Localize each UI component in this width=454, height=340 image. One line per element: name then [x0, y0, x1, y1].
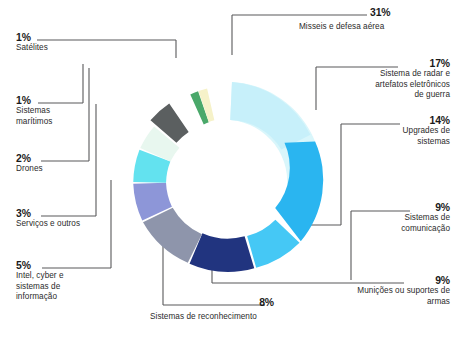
callout-municoes-suportes-armas: 9% Munições ou suportes de armas	[296, 276, 450, 307]
donut-chart-figure: 31% Misseis e defesa aérea 17% Sistema d…	[0, 0, 454, 340]
callout-name-sistemas-maritimos: Sistemas marítimos	[16, 106, 110, 127]
callout-pct-drones: 2%	[16, 154, 110, 164]
callout-sistemas-de-reconhecimento-name: Sistemas de reconhecimento	[150, 312, 340, 322]
callout-name-satelites: Satélites	[16, 43, 110, 53]
callout-pct-upgrades-de-sistemas: 14%	[364, 116, 450, 126]
callout-pct-servicos-e-outros: 3%	[16, 209, 124, 219]
callout-name-municoes-suportes-armas: Munições ou suportes de armas	[296, 286, 450, 307]
callout-pct-satelites: 1%	[16, 33, 110, 43]
callout-satelites: 1% Satélites	[16, 33, 110, 54]
callout-name-intel-cyber-informacao: Intel, cyber e sistemas de informação	[16, 271, 112, 302]
callout-radar-guerra-eletronica: 17% Sistema de radar e artefatos eletrôn…	[354, 59, 450, 101]
callout-pct-intel-cyber-informacao: 5%	[16, 261, 112, 271]
callout-name-radar-guerra-eletronica: Sistema de radar e artefatos eletrônicos…	[354, 69, 450, 100]
callout-name-misseis-defesa-aerea: Misseis e defesa aérea	[299, 22, 454, 32]
callout-misseis-defesa-aerea-name: Misseis e defesa aérea	[299, 22, 454, 32]
callout-name-sistemas-de-reconhecimento: Sistemas de reconhecimento	[150, 312, 340, 322]
callout-pct-misseis-defesa-aerea: 31%	[370, 8, 454, 18]
callout-upgrades-de-sistemas: 14% Upgrades de sistemas	[364, 116, 450, 147]
callout-drones: 2% Drones	[16, 154, 110, 175]
callout-pct-municoes-suportes-armas: 9%	[296, 276, 450, 286]
callout-sistemas-de-comunicacao: 9% Sistemas de comunicação	[364, 203, 450, 234]
callout-pct-sistemas-de-reconhecimento: 8%	[150, 298, 274, 308]
callout-name-drones: Drones	[16, 164, 110, 174]
callout-pct-sistemas-de-comunicacao: 9%	[364, 203, 450, 213]
callout-name-sistemas-de-comunicacao: Sistemas de comunicação	[364, 213, 450, 234]
callout-sistemas-de-reconhecimento: 8%	[150, 298, 274, 308]
callout-servicos-e-outros: 3% Serviços e outros	[16, 209, 124, 230]
callout-misseis-defesa-aerea: 31%	[370, 8, 454, 18]
slice-sistemas-de-reconhecimento[interactable]	[143, 208, 202, 263]
callout-intel-cyber-informacao: 5% Intel, cyber e sistemas de informação	[16, 261, 112, 303]
callout-pct-sistemas-maritimos: 1%	[16, 96, 110, 106]
callout-sistemas-maritimos: 1% Sistemas marítimos	[16, 96, 110, 127]
donut-slices	[133, 82, 323, 272]
callout-name-upgrades-de-sistemas: Upgrades de sistemas	[364, 126, 450, 147]
callout-name-servicos-e-outros: Serviços e outros	[16, 219, 124, 229]
callout-pct-radar-guerra-eletronica: 17%	[354, 59, 450, 69]
